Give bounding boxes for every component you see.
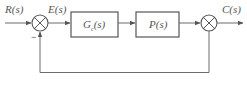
- feedback-minus-sign: −: [31, 32, 36, 42]
- controller-block: Gc(s): [71, 12, 118, 37]
- plant-label: P(s): [148, 18, 168, 31]
- summing-junction-2: [201, 15, 217, 31]
- block-diagram: R(s) − E(s) Gc(s) P(s) C(s): [0, 0, 247, 85]
- summing-junction-1: [32, 15, 48, 31]
- output-signal-label: C(s): [222, 3, 241, 16]
- plant-block: P(s): [136, 12, 179, 37]
- feedback-path: [40, 31, 209, 73]
- controller-label: Gc(s): [83, 18, 106, 32]
- error-signal-label: E(s): [47, 3, 67, 16]
- input-signal-label: R(s): [4, 3, 24, 16]
